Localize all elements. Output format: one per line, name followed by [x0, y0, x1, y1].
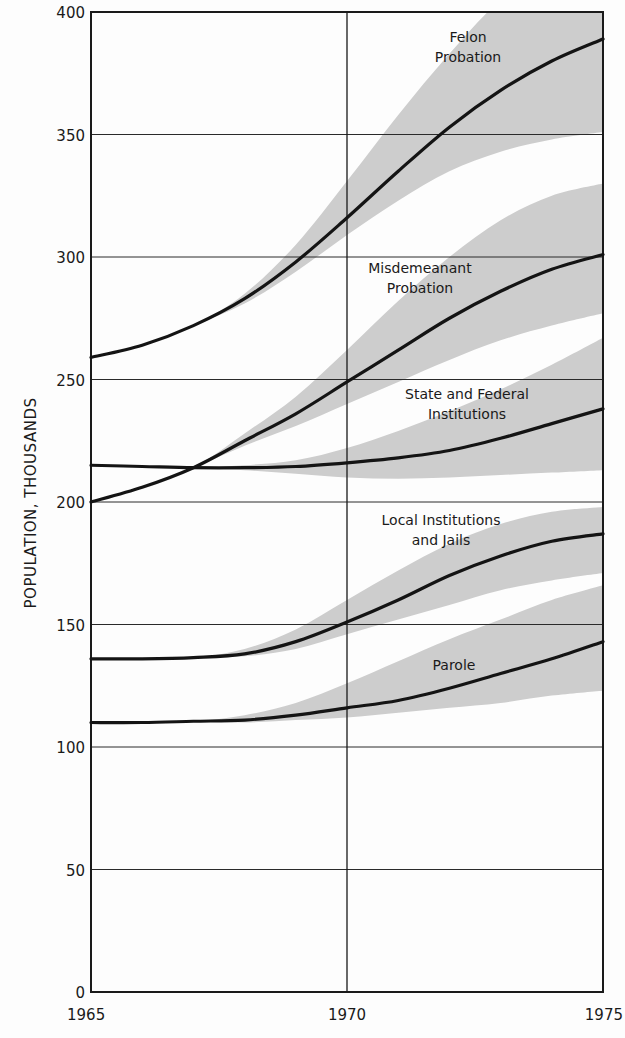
y-tick-label: 200 [56, 494, 85, 512]
y-tick-label: 350 [56, 127, 85, 145]
y-tick-label: 400 [56, 4, 85, 22]
y-tick-label: 0 [75, 984, 85, 1002]
x-axis-ticks: 196519701975 [67, 1006, 623, 1024]
population-chart: FelonProbationMisdemeanantProbationState… [0, 0, 625, 1038]
x-tick-label: 1975 [585, 1006, 623, 1024]
y-axis-ticks: 050100150200250300350400 [56, 4, 85, 1002]
y-tick-label: 150 [56, 617, 85, 635]
x-tick-label: 1970 [328, 1006, 366, 1024]
y-tick-label: 300 [56, 249, 85, 267]
clipped-caption-fragment [460, 1030, 625, 1038]
y-axis-label: POPULATION, THOUSANDS [22, 398, 40, 609]
y-tick-label: 100 [56, 739, 85, 757]
y-tick-label: 50 [66, 862, 85, 880]
y-tick-label: 250 [56, 372, 85, 390]
gridlines [91, 12, 603, 992]
x-tick-label: 1965 [67, 1006, 105, 1024]
series-label: Parole [433, 657, 476, 673]
